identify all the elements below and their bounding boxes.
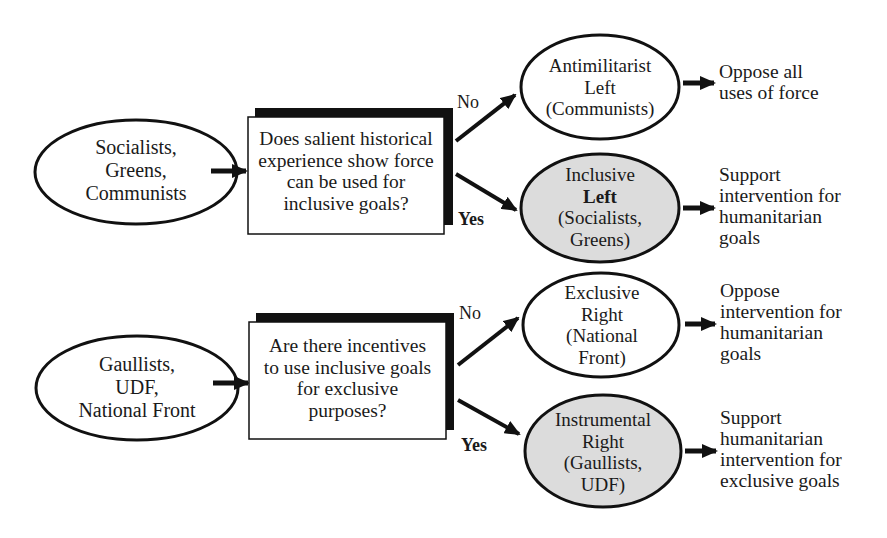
outcome-node-no-bottom: Exclusive Right (National Front) [522,282,682,368]
result-no-bottom: Oppose intervention for humanitarian goa… [720,280,842,364]
result-yes-top: Support intervention for humanitarian go… [719,164,841,248]
arrow-no-bottom [458,318,518,365]
yes-label-top: Yes [458,209,484,230]
no-label-top: No [457,92,479,113]
outcome-node-yes-bottom: Instrumental Right (Gaullists, UDF) [523,409,683,495]
start-node-top: Socialists, Greens, Communists [36,136,236,205]
arrow-yes-top [456,174,516,210]
outcome-node-yes-top: Inclusive Left (Socialists, Greens) [520,164,680,250]
yes-label-bottom: Yes [461,435,487,456]
arrow-yes-bottom [458,400,519,434]
result-no-top: Oppose all uses of force [719,61,819,103]
question-node-bottom: Are there incentives to use inclusive go… [249,335,446,421]
result-yes-bottom: Support humanitarian intervention for ex… [720,407,842,491]
outcome-node-no-top: Antimilitarist Left (Communists) [520,55,680,120]
question-node-top: Does salient historical experience show … [248,128,444,214]
start-node-bottom: Gaullists, UDF, National Front [37,353,237,422]
no-label-bottom: No [459,303,481,324]
